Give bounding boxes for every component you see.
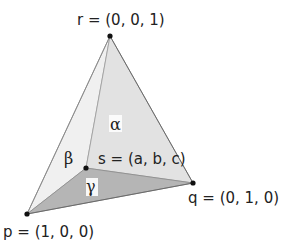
label-alpha: α: [110, 115, 121, 134]
point-q: [190, 180, 195, 185]
label-r: r = (0, 0, 1): [77, 11, 165, 29]
point-p: [24, 211, 29, 216]
point-s: [83, 165, 88, 170]
barycentric-diagram: r = (0, 0, 1) p = (1, 0, 0) q = (0, 1, 0…: [0, 0, 292, 249]
label-beta: β: [64, 149, 73, 168]
label-s: s = (a, b, c): [98, 150, 186, 168]
label-gamma: γ: [86, 177, 96, 196]
label-p: p = (1, 0, 0): [3, 223, 94, 241]
point-r: [107, 33, 112, 38]
label-q: q = (0, 1, 0): [188, 189, 279, 207]
